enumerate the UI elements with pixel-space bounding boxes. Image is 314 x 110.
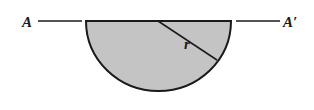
left-label: A <box>21 14 32 30</box>
right-label: A′ <box>282 14 297 30</box>
semicircle-diagram: A A′ r <box>0 0 314 110</box>
radius-label: r <box>184 36 190 52</box>
semicircle-shape <box>86 21 231 91</box>
